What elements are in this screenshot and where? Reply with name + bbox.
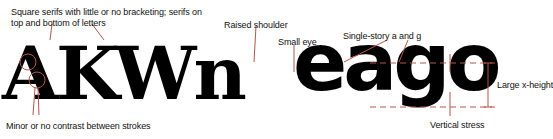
label-raised-shoulder: Raised shoulder (224, 20, 288, 31)
label-minor-contrast: Minor or no contrast between strokes (6, 121, 150, 132)
label-square-serifs-line2: top and bottom of letters (11, 18, 106, 29)
label-small-eye: Small eye (278, 37, 317, 48)
label-square-serifs: Square serifs with little or no bracketi… (11, 7, 202, 18)
label-vertical-stress: Vertical stress (430, 120, 485, 131)
label-large-x-height: Large x-height (497, 80, 553, 91)
label-single-story: Single-story a and g (343, 31, 421, 42)
